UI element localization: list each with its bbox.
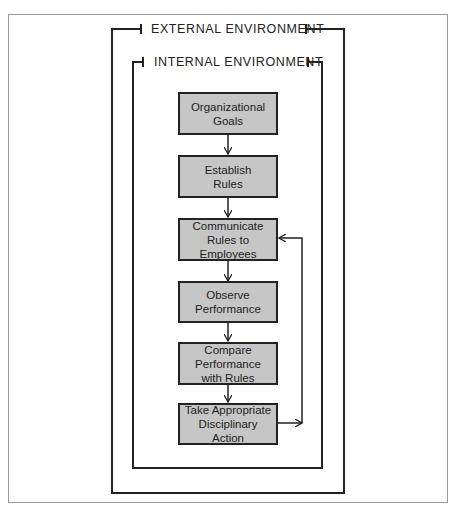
step-communicate-rules: Communicate Rules to Employees [178, 218, 278, 261]
step-label: Take Appropriate Disciplinary Action [184, 403, 272, 445]
internal-environment-label: INTERNAL ENVIRONMENT [154, 55, 323, 69]
step-label: Compare Performance with Rules [192, 343, 264, 385]
external-environment-label: EXTERNAL ENVIRONMENT [151, 22, 324, 36]
step-disciplinary-action: Take Appropriate Disciplinary Action [178, 403, 278, 445]
step-label: Establish Rules [204, 163, 252, 191]
step-organizational-goals: Organizational Goals [178, 92, 278, 135]
step-observe-performance: Observe Performance [178, 281, 278, 323]
step-label: Communicate Rules to Employees [192, 219, 264, 261]
step-label: Observe Performance [194, 288, 262, 316]
step-establish-rules: Establish Rules [178, 155, 278, 198]
step-compare-performance: Compare Performance with Rules [178, 342, 278, 385]
feedback-loop-arrow [278, 238, 302, 423]
step-label: Organizational Goals [191, 100, 265, 128]
